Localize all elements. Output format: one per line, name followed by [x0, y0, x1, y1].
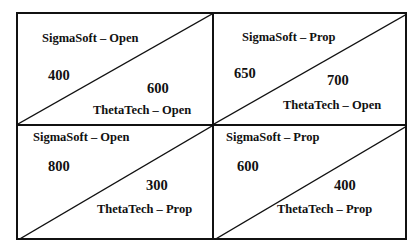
cell-open-prop: SigmaSoft – Open 800 300 ThetaTech – Pro…	[18, 126, 212, 240]
row-payoff: 800	[48, 158, 70, 175]
row-payoff: 650	[234, 65, 256, 82]
row-strategy-label: SigmaSoft – Prop	[226, 130, 320, 145]
row-strategy-label: SigmaSoft – Open	[33, 130, 130, 145]
row-payoff: 600	[237, 158, 259, 175]
col-payoff: 600	[147, 80, 169, 97]
row-strategy-label: SigmaSoft – Open	[42, 31, 139, 46]
row-strategy-label: SigmaSoft – Prop	[242, 30, 336, 45]
col-strategy-label: ThetaTech – Prop	[97, 202, 192, 217]
col-payoff: 700	[327, 72, 349, 89]
cell-prop-open: SigmaSoft – Prop 650 700 ThetaTech – Ope…	[214, 14, 407, 124]
col-payoff: 400	[334, 177, 356, 194]
row-payoff: 400	[48, 67, 70, 84]
payoff-matrix: SigmaSoft – Open 400 600 ThetaTech – Ope…	[16, 12, 407, 240]
col-strategy-label: ThetaTech – Prop	[277, 202, 372, 217]
cell-prop-prop: SigmaSoft – Prop 600 400 ThetaTech – Pro…	[214, 126, 407, 240]
col-strategy-label: ThetaTech – Open	[283, 98, 381, 113]
col-payoff: 300	[146, 177, 168, 194]
col-strategy-label: ThetaTech – Open	[93, 103, 191, 118]
cell-open-open: SigmaSoft – Open 400 600 ThetaTech – Ope…	[18, 14, 212, 124]
